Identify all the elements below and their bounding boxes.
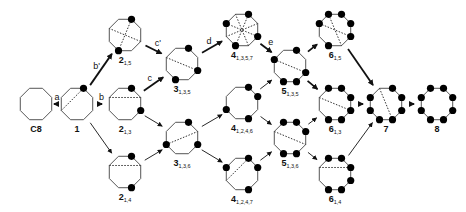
node-label: 1	[74, 124, 79, 134]
atom-dot-icon	[128, 85, 135, 92]
atom-dot-icon	[347, 20, 354, 27]
node-label: 31,3,6	[173, 158, 190, 169]
octagon-ring	[109, 156, 140, 187]
atom-dot-icon	[254, 93, 261, 100]
octagon-ring	[319, 158, 350, 189]
node-8: 8	[418, 85, 457, 134]
node-1: 1	[61, 85, 92, 134]
edge-1-to-2_13: b	[99, 92, 104, 104]
atom-dot-icon	[440, 85, 447, 92]
atom-dot-icon	[194, 141, 201, 148]
edge-2_13-to-3_136	[145, 116, 162, 126]
atom-dot-icon	[137, 107, 144, 114]
atom-dot-icon	[418, 107, 425, 114]
node-4_1246: 41,2,4,6	[223, 84, 262, 134]
atom-dot-icon	[185, 119, 192, 126]
atom-dot-icon	[347, 94, 354, 101]
arrow	[202, 115, 222, 127]
node-label: 21,3	[119, 124, 132, 135]
arrow	[308, 44, 317, 51]
atom-dot-icon	[232, 42, 239, 49]
arrow	[202, 150, 223, 162]
atom-dot-icon	[427, 116, 434, 123]
atom-dot-icon	[245, 84, 252, 91]
edge-6_15-to-7	[348, 49, 373, 85]
node-label: C8	[30, 124, 42, 134]
atom-dot-icon	[245, 155, 252, 162]
arrow	[145, 116, 162, 126]
arrow	[260, 80, 272, 89]
arrow	[260, 152, 271, 160]
atom-dot-icon	[280, 119, 287, 126]
atom-dot-icon	[194, 67, 201, 74]
octagon-ring	[109, 88, 140, 119]
reaction-diagram: ab'bc'cde C8121,521,321,431,3,531,3,641,…	[0, 0, 466, 212]
atom-dot-icon	[338, 116, 345, 123]
octagon-ring	[274, 50, 305, 81]
edge-3_136-to-4_1246	[202, 115, 222, 127]
atom-dot-icon	[398, 94, 405, 101]
node-label: 51,3,5	[281, 86, 298, 97]
atom-dot-icon	[338, 11, 345, 18]
node-5_135: 51,3,5	[271, 47, 310, 97]
atom-dot-icon	[347, 107, 354, 114]
edge-3_135-to-4_1357: d	[202, 36, 222, 53]
octagon-ring	[109, 19, 140, 50]
atom-dot-icon	[449, 107, 456, 114]
octagon-ring	[20, 88, 51, 119]
node-label: 21,5	[119, 55, 132, 66]
arrow	[348, 49, 373, 85]
atom-dot-icon	[115, 47, 122, 54]
atom-dot-icon	[338, 186, 345, 193]
node-label: 21,4	[119, 192, 132, 203]
atom-dot-icon	[389, 116, 396, 123]
edge-4_1246-to-5_135	[260, 80, 272, 89]
atom-dot-icon	[367, 107, 374, 114]
edge-3_136-to-4_1247	[202, 150, 223, 162]
atom-dot-icon	[80, 85, 87, 92]
node-2_13: 21,3	[109, 85, 144, 135]
node-label: 41,2,4,7	[231, 194, 253, 205]
atom-dot-icon	[302, 128, 309, 135]
edge-label: b	[99, 92, 104, 102]
octagon-ring	[226, 158, 257, 189]
edge-label: e	[268, 37, 273, 47]
edge-label: c'	[155, 38, 162, 48]
atom-dot-icon	[254, 164, 261, 171]
atom-dot-icon	[325, 116, 332, 123]
octagon-ring	[421, 88, 452, 119]
atom-dot-icon	[418, 94, 425, 101]
node-2_15: 21,5	[109, 16, 140, 66]
octagon-ring	[319, 88, 350, 119]
atom-dot-icon	[325, 85, 332, 92]
octagon-ring	[274, 122, 305, 153]
node-6_14: 61,4	[319, 155, 354, 205]
atom-dot-icon	[302, 69, 309, 76]
octagon-ring	[319, 14, 350, 45]
node-3_136: 31,3,6	[163, 119, 202, 169]
edge-4_1246-to-5_136	[261, 117, 272, 125]
atom-dot-icon	[271, 56, 278, 63]
edge-5_135-to-6_15	[308, 44, 317, 51]
edge-label: b'	[93, 61, 100, 71]
atom-dot-icon	[449, 94, 456, 101]
atom-dot-icon	[245, 186, 252, 193]
node-label: 8	[434, 124, 439, 134]
edge-1-to-2_14	[90, 123, 111, 153]
atom-dot-icon	[325, 155, 332, 162]
node-label: 61,4	[329, 194, 342, 205]
atom-dot-icon	[280, 150, 287, 157]
atom-dot-icon	[427, 85, 434, 92]
atom-dot-icon	[440, 116, 447, 123]
atom-dot-icon	[347, 33, 354, 40]
atom-dot-icon	[128, 184, 135, 191]
atom-dot-icon	[347, 177, 354, 184]
node-6_15: 61,5	[316, 11, 355, 61]
atom-dot-icon	[223, 20, 230, 27]
atom-dot-icon	[293, 119, 300, 126]
atom-dot-icon	[389, 85, 396, 92]
arrow	[202, 41, 222, 52]
atom-dot-icon	[316, 20, 323, 27]
arrow	[308, 152, 317, 159]
atom-dot-icon	[398, 107, 405, 114]
